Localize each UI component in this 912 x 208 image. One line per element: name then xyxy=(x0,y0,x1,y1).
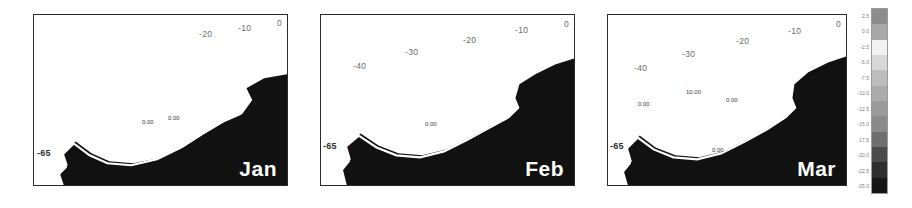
contour-label-mar-3: 0.00 xyxy=(712,147,724,153)
lat-label-feb-0: -65 xyxy=(323,141,337,151)
colorbar-tick-3: -5.0 xyxy=(860,60,869,65)
lon-label-mar-4: 0 xyxy=(836,19,841,29)
colorbar-swatch-8 xyxy=(872,132,887,147)
lon-label-feb-3: -10 xyxy=(515,25,528,35)
lat-label-mar-0: -65 xyxy=(610,141,624,151)
lon-label-feb-2: -20 xyxy=(463,35,476,45)
lon-label-mar-1: -30 xyxy=(682,49,695,59)
colorbar-tick-0: 2.5 xyxy=(862,13,869,18)
plot-area-feb: -40 -30 -20 -10 0 -65 0.00 Feb xyxy=(321,15,574,185)
colorbar-tick-1: 0.0 xyxy=(862,29,869,34)
colorbar-tick-11: -25.0 xyxy=(858,184,869,189)
lon-label-jan-2: 0 xyxy=(277,18,282,28)
contour-label-jan-1: 0.00 xyxy=(168,115,180,121)
map-panel-mar: -40 -30 -20 -10 0 -65 10.00 0.00 0.00 0.… xyxy=(607,14,847,186)
colorbar-swatch-10 xyxy=(872,162,887,177)
colorbar-swatch-0 xyxy=(872,9,887,24)
colorbar-swatch-4 xyxy=(872,70,887,85)
lon-label-mar-0: -40 xyxy=(634,63,647,73)
lon-label-mar-2: -20 xyxy=(736,36,749,46)
contour-label-mar-0: 10.00 xyxy=(686,89,701,95)
colorbar-swatch-1 xyxy=(872,24,887,39)
figure-canvas: -20 -10 0 -65 0.00 0.00 Jan xyxy=(0,0,912,208)
colorbar-swatch-6 xyxy=(872,101,887,116)
month-label-jan: Jan xyxy=(239,158,277,179)
colorbar-tick-5: -10.0 xyxy=(858,91,869,96)
plot-area-jan: -20 -10 0 -65 0.00 0.00 Jan xyxy=(34,15,287,185)
colorbar xyxy=(871,8,888,194)
lon-label-jan-0: -20 xyxy=(199,29,212,39)
colorbar-swatch-3 xyxy=(872,55,887,70)
map-panel-jan: -20 -10 0 -65 0.00 0.00 Jan xyxy=(33,14,288,186)
colorbar-tick-6: -12.5 xyxy=(858,106,869,111)
colorbar-swatch-5 xyxy=(872,86,887,101)
plot-area-mar: -40 -30 -20 -10 0 -65 10.00 0.00 0.00 0.… xyxy=(608,15,846,185)
month-label-feb: Feb xyxy=(525,158,564,179)
month-label-mar: Mar xyxy=(797,158,836,179)
colorbar-tick-7: -15.0 xyxy=(858,122,869,127)
map-panel-feb: -40 -30 -20 -10 0 -65 0.00 Feb xyxy=(320,14,575,186)
colorbar-swatch-11 xyxy=(872,178,887,193)
colorbar-swatch-2 xyxy=(872,40,887,55)
lon-label-mar-3: -10 xyxy=(788,26,801,36)
colorbar-tick-10: -22.5 xyxy=(858,168,869,173)
lon-label-feb-0: -40 xyxy=(353,61,366,71)
lat-label-jan-0: -65 xyxy=(37,148,51,158)
lon-label-feb-1: -30 xyxy=(405,47,418,57)
colorbar-tick-8: -17.5 xyxy=(858,137,869,142)
colorbar-tick-4: -7.5 xyxy=(860,75,869,80)
colorbar-tick-labels: 2.50.0-2.5-5.0-7.5-10.0-12.5-15.0-17.5-2… xyxy=(845,8,869,194)
contour-label-mar-1: 0.00 xyxy=(638,101,650,107)
contour-label-feb-0: 0.00 xyxy=(425,121,437,127)
colorbar-tick-2: -2.5 xyxy=(860,44,869,49)
contour-label-jan-0: 0.00 xyxy=(142,119,154,125)
colorbar-tick-9: -20.0 xyxy=(858,153,869,158)
colorbar-swatch-7 xyxy=(872,116,887,131)
colorbar-swatch-9 xyxy=(872,147,887,162)
contour-label-mar-2: 0.00 xyxy=(726,97,738,103)
lon-label-feb-4: 0 xyxy=(564,19,569,29)
lon-label-jan-1: -10 xyxy=(238,23,251,33)
